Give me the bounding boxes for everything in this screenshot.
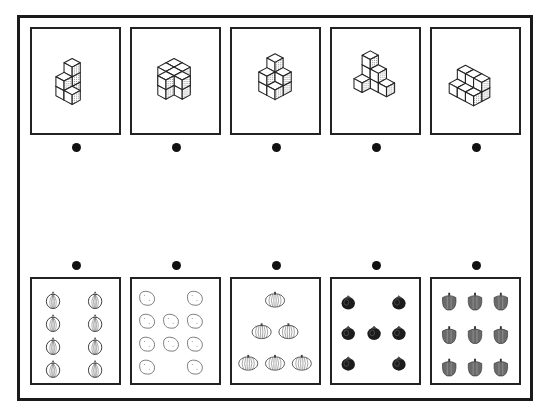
pumpkin-group: [232, 279, 319, 383]
cube-structure-icon: [432, 29, 519, 133]
match-dot-top-2[interactable]: [172, 143, 181, 152]
onion-card[interactable]: onion: [30, 277, 121, 385]
onion-icon: [88, 292, 101, 309]
onion-icon: [46, 338, 59, 355]
potato-group: [132, 279, 219, 383]
cube-structure-icon: [132, 29, 219, 133]
potato-icon: [140, 360, 155, 374]
potato-card[interactable]: potato: [130, 277, 221, 385]
pepper-icon: [442, 359, 456, 376]
potato-icon: [140, 337, 155, 351]
pepper-icon: [468, 326, 482, 343]
potato-icon: [164, 314, 179, 328]
potato-icon: [187, 337, 202, 351]
potato-icon: [187, 291, 202, 305]
tomato-icon: [367, 326, 380, 340]
potato-icon: [187, 360, 202, 374]
onion-group: [32, 279, 119, 383]
pepper-icon: [468, 359, 482, 376]
cube-card-3[interactable]: cube structure: [230, 27, 321, 135]
cube-structure-icon: [332, 29, 419, 133]
pepper-card[interactable]: pepper: [430, 277, 521, 385]
potato-icon: [164, 337, 179, 351]
match-dot-bottom-4[interactable]: [372, 261, 381, 270]
onion-icon: [88, 315, 101, 332]
pumpkin-icon: [252, 323, 271, 338]
cube-card-2[interactable]: cube structure: [130, 27, 221, 135]
onion-icon: [46, 292, 59, 309]
potato-icon: [187, 314, 202, 328]
pepper-icon: [494, 293, 508, 310]
match-dot-top-4[interactable]: [372, 143, 381, 152]
cube-card-1[interactable]: cube structure: [30, 27, 121, 135]
pumpkin-icon: [265, 355, 284, 370]
pumpkin-icon: [292, 355, 311, 370]
onion-icon: [88, 361, 101, 378]
onion-icon: [46, 315, 59, 332]
tomato-icon: [392, 326, 405, 340]
pepper-icon: [442, 326, 456, 343]
match-dot-top-1[interactable]: [72, 143, 81, 152]
onion-icon: [46, 361, 59, 378]
pumpkin-card[interactable]: pumpkin: [230, 277, 321, 385]
cube-card-5[interactable]: cube structure: [430, 27, 521, 135]
tomato-card[interactable]: tomato: [330, 277, 421, 385]
tomato-group: [332, 279, 419, 383]
pepper-icon: [494, 359, 508, 376]
tomato-icon: [342, 357, 355, 371]
cube-structure-icon: [32, 29, 119, 133]
match-dot-top-3[interactable]: [272, 143, 281, 152]
tomato-icon: [342, 296, 355, 310]
pumpkin-icon: [279, 323, 298, 338]
pepper-icon: [442, 293, 456, 310]
onion-icon: [88, 338, 101, 355]
tomato-icon: [342, 326, 355, 340]
pepper-group: [432, 279, 519, 383]
tomato-icon: [392, 357, 405, 371]
cube-card-4[interactable]: cube structure: [330, 27, 421, 135]
pepper-icon: [468, 293, 482, 310]
potato-icon: [140, 291, 155, 305]
match-dot-bottom-2[interactable]: [172, 261, 181, 270]
potato-icon: [140, 314, 155, 328]
cube-structure-icon: [232, 29, 319, 133]
pumpkin-icon: [239, 355, 258, 370]
match-dot-bottom-1[interactable]: [72, 261, 81, 270]
pepper-icon: [494, 326, 508, 343]
tomato-icon: [392, 296, 405, 310]
match-dot-bottom-3[interactable]: [272, 261, 281, 270]
match-dot-bottom-5[interactable]: [472, 261, 481, 270]
pumpkin-icon: [265, 292, 284, 307]
match-dot-top-5[interactable]: [472, 143, 481, 152]
